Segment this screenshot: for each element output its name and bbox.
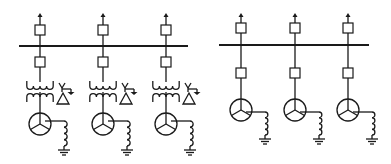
circuit-breaker-icon: [343, 23, 353, 33]
outgoing-arrow-icon: [101, 13, 106, 25]
generator-icon: [29, 113, 51, 135]
ground-icon: [259, 139, 271, 144]
circuit-breaker-icon: [35, 57, 45, 67]
feeder-2: [284, 13, 325, 144]
feeder-1: [27, 13, 75, 155]
grounding-reactor-icon: [108, 121, 130, 150]
outgoing-arrow-icon: [239, 13, 244, 23]
left-panel-generator-transformer-units: [19, 13, 201, 155]
feeder-3: [153, 13, 201, 155]
grounding-reactor-icon: [171, 121, 193, 150]
grounding-reactor-icon: [353, 112, 375, 139]
outgoing-arrow-icon: [346, 13, 351, 23]
star-earthed-winding-icon: [122, 83, 138, 95]
circuit-breaker-icon: [290, 23, 300, 33]
generator-icon: [284, 99, 306, 121]
ground-icon: [366, 139, 378, 144]
generator-icon: [230, 99, 252, 121]
generator-icon: [155, 113, 177, 135]
grounding-reactor-icon: [300, 112, 322, 139]
delta-winding-icon: [183, 93, 195, 104]
grounding-reactor-icon: [45, 121, 67, 150]
generator-icon: [92, 113, 114, 135]
delta-winding-icon: [57, 93, 69, 104]
circuit-breaker-icon: [161, 57, 171, 67]
star-earthed-winding-icon: [59, 83, 75, 95]
feeder-3: [337, 13, 378, 144]
star-earthed-winding-icon: [185, 83, 201, 95]
ground-icon: [313, 139, 325, 144]
circuit-breaker-icon: [161, 25, 171, 35]
ground-icon: [58, 150, 70, 155]
outgoing-arrow-icon: [38, 13, 43, 25]
feeder-2: [90, 13, 138, 155]
right-panel-direct-generators: [219, 13, 378, 144]
feeder-1: [230, 13, 271, 144]
ground-icon: [184, 150, 196, 155]
circuit-breaker-icon: [236, 23, 246, 33]
circuit-breaker-icon: [98, 25, 108, 35]
circuit-breaker-icon: [343, 68, 353, 78]
circuit-breaker-icon: [236, 68, 246, 78]
delta-winding-icon: [120, 93, 132, 104]
circuit-breaker-icon: [35, 25, 45, 35]
outgoing-arrow-icon: [293, 13, 298, 23]
outgoing-arrow-icon: [164, 13, 169, 25]
generator-icon: [337, 99, 359, 121]
ground-icon: [121, 150, 133, 155]
circuit-breaker-icon: [290, 68, 300, 78]
circuit-breaker-icon: [98, 57, 108, 67]
single-line-diagram: [0, 0, 391, 164]
grounding-reactor-icon: [246, 112, 268, 139]
